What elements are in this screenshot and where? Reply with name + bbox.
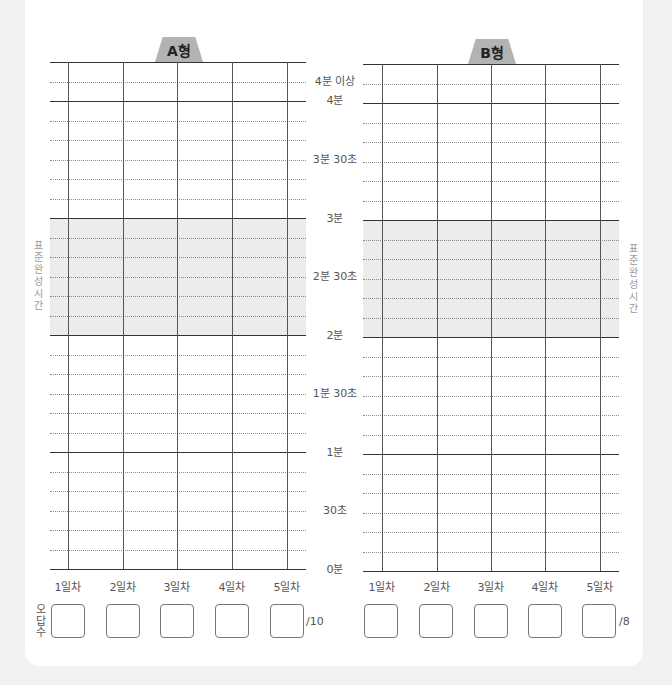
- y-tick-3min30s: 3분 30초: [305, 154, 365, 166]
- tab-b-type: B형: [468, 39, 516, 64]
- x-label-b-day4: 4일차: [520, 578, 570, 594]
- gridline-minor: [50, 140, 306, 141]
- wrong-count-box-b-day2[interactable]: [419, 604, 453, 638]
- wrong-count-box-b-day5[interactable]: [582, 604, 616, 638]
- gridline-minor: [50, 550, 306, 551]
- wrong-count-box-a-day2[interactable]: [106, 604, 140, 638]
- gridline-minor: [50, 355, 306, 356]
- gridline-minor: [50, 296, 306, 297]
- day-column-line-2: [437, 64, 438, 571]
- day-column-line-4: [232, 62, 233, 569]
- x-label-a-day2: 2일차: [98, 578, 148, 594]
- x-label-a-day1: 1일차: [43, 578, 93, 594]
- y-tick-2min30s: 2분 30초: [305, 271, 365, 283]
- tab-a-type: A형: [155, 37, 203, 62]
- day-column-line-3: [491, 64, 492, 571]
- day-column-line-1: [382, 64, 383, 571]
- chart-b-grid[interactable]: [363, 64, 619, 571]
- day-column-line-5: [600, 64, 601, 571]
- standard-time-label-right: 표준완성시간: [627, 243, 639, 315]
- wrong-count-label: 오답수: [35, 604, 47, 639]
- x-label-b-day1: 1일차: [357, 578, 407, 594]
- gridline-major: [50, 218, 306, 219]
- gridline-minor: [50, 511, 306, 512]
- gridline-minor: [50, 316, 306, 317]
- gridline-major: [50, 569, 306, 570]
- gridline-minor: [50, 160, 306, 161]
- day-column-line-4: [545, 64, 546, 571]
- gridline-minor: [50, 433, 306, 434]
- day-column-line-1: [68, 62, 69, 569]
- y-tick-over-4min: 4분 이상: [305, 76, 365, 88]
- wrong-count-box-b-day1[interactable]: [364, 604, 398, 638]
- gridline-minor: [50, 238, 306, 239]
- y-tick-2min: 2분: [305, 330, 365, 342]
- x-label-a-day4: 4일차: [207, 578, 257, 594]
- wrong-count-box-a-day1[interactable]: [51, 604, 85, 638]
- tab-b-label: B형: [480, 42, 504, 62]
- y-tick-4min: 4분: [305, 95, 365, 107]
- gridline-minor: [50, 199, 306, 200]
- gridline-major: [50, 62, 306, 63]
- x-label-b-day5: 5일차: [575, 578, 625, 594]
- wrong-count-box-a-day4[interactable]: [215, 604, 249, 638]
- day-column-line-2: [123, 62, 124, 569]
- wrong-count-box-b-day3[interactable]: [474, 604, 508, 638]
- y-tick-30s: 30초: [305, 505, 365, 517]
- gridline-minor: [50, 530, 306, 531]
- x-label-b-day2: 2일차: [412, 578, 462, 594]
- gridline-minor: [50, 394, 306, 395]
- wrong-count-box-a-day5[interactable]: [270, 604, 304, 638]
- tab-a-label: A형: [167, 40, 191, 60]
- gridline-minor: [50, 277, 306, 278]
- gridline-minor: [50, 179, 306, 180]
- x-label-a-day5: 5일차: [262, 578, 312, 594]
- y-tick-1min: 1분: [305, 447, 365, 459]
- day-column-line-3: [177, 62, 178, 569]
- x-label-a-day3: 3일차: [152, 578, 202, 594]
- gridline-minor: [50, 491, 306, 492]
- gridline-major: [50, 452, 306, 453]
- gridline-minor: [50, 472, 306, 473]
- day-column-line-5: [287, 62, 288, 569]
- x-label-b-day3: 3일차: [466, 578, 516, 594]
- gridline-minor: [50, 413, 306, 414]
- wrong-count-box-a-day3[interactable]: [160, 604, 194, 638]
- gridline-minor: [50, 82, 306, 83]
- wrong-total-a: /10: [306, 615, 324, 628]
- gridline-minor: [50, 257, 306, 258]
- chart-a-grid[interactable]: [50, 62, 306, 569]
- wrong-count-box-b-day4[interactable]: [528, 604, 562, 638]
- y-tick-0min: 0분: [305, 564, 365, 576]
- gridline-major: [363, 571, 619, 572]
- gridline-minor: [50, 121, 306, 122]
- gridline-major: [50, 335, 306, 336]
- gridline-minor: [50, 374, 306, 375]
- gridline-major: [50, 101, 306, 102]
- y-tick-1min30s: 1분 30초: [305, 388, 365, 400]
- standard-time-label-left: 표준완성시간: [32, 240, 44, 312]
- wrong-total-b: /8: [619, 615, 630, 628]
- y-tick-3min: 3분: [305, 213, 365, 225]
